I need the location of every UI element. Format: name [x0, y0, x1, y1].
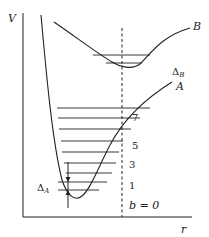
x-axis-label: r	[181, 223, 187, 236]
delta-A-label: ΔA	[37, 182, 49, 195]
curve-A-label: A	[175, 80, 184, 93]
ground-level-label: b = 0	[129, 199, 159, 212]
curve-B-label: B	[192, 20, 201, 33]
level-label-5: 5	[132, 140, 138, 151]
curve-A	[41, 15, 172, 198]
potential-energy-diagram: V r B ΔB A 7 5 3 1 b = 0 ΔA	[0, 0, 209, 237]
level-label-3: 3	[129, 159, 135, 170]
y-axis-label: V	[8, 12, 17, 25]
arrow-down-icon	[66, 177, 71, 182]
level-label-1: 1	[129, 180, 135, 191]
level-label-7: 7	[132, 112, 138, 123]
delta-B-label: ΔB	[172, 66, 184, 79]
